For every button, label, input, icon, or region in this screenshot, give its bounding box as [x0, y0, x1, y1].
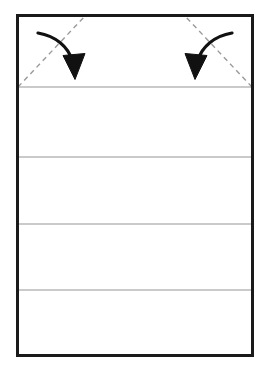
paper-sheet	[18, 16, 253, 356]
fold-diagram-svg	[0, 0, 268, 369]
fold-diagram-root: Paper folding diagram Rectangular sheet …	[0, 0, 268, 369]
